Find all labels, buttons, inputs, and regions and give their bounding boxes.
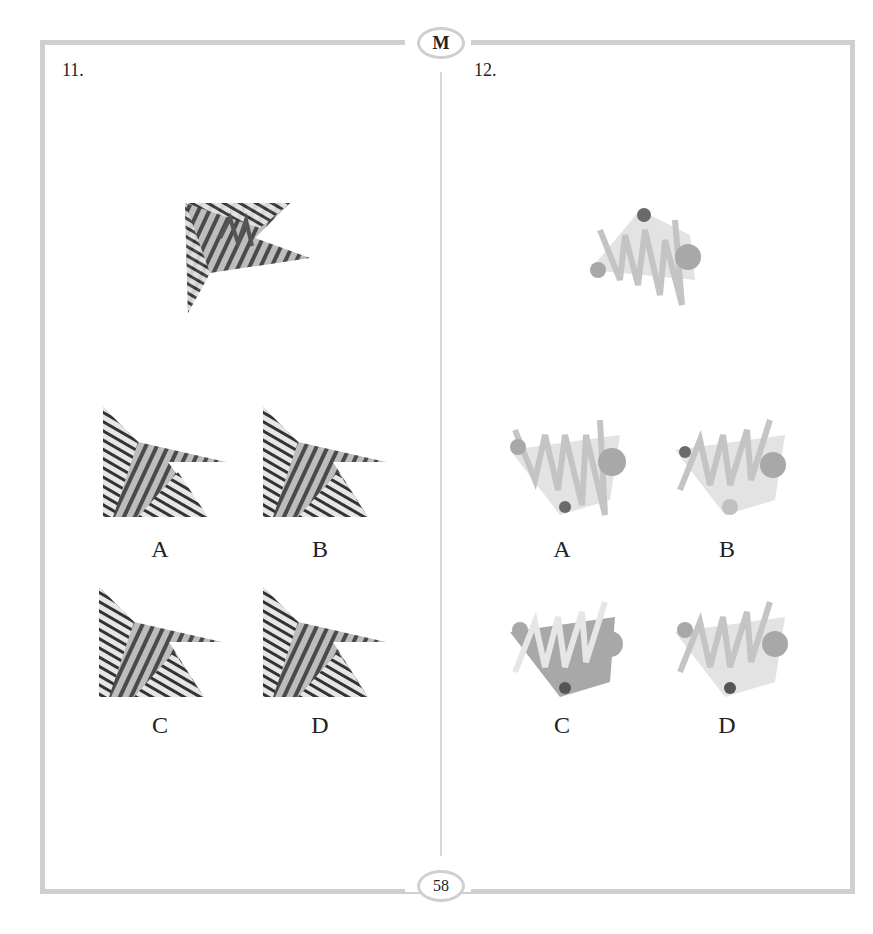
q11-option-b-label: B (300, 536, 340, 563)
q11-option-c-figure[interactable] (94, 582, 234, 702)
q12-option-c-figure[interactable] (500, 592, 635, 702)
page-number: 58 (417, 870, 465, 902)
q12-stem-figure (580, 200, 710, 310)
q12-option-b-figure[interactable] (665, 410, 800, 520)
q11-stem-figure (180, 198, 320, 318)
question-number-12: 12. (474, 60, 497, 81)
q11-option-a-label: A (140, 536, 180, 563)
q11-option-a-figure[interactable] (98, 402, 238, 522)
q11-option-d-label: D (300, 712, 340, 739)
q12-option-d-figure[interactable] (665, 592, 800, 702)
q12-option-c-label: C (542, 712, 582, 739)
q12-option-a-label: A (542, 536, 582, 563)
q11-option-d-figure[interactable] (258, 582, 398, 702)
q12-option-d-label: D (707, 712, 747, 739)
q11-option-b-figure[interactable] (258, 402, 398, 522)
column-divider (440, 72, 442, 856)
q12-option-b-label: B (707, 536, 747, 563)
q11-option-c-label: C (140, 712, 180, 739)
section-badge: M (417, 27, 465, 59)
question-number-11: 11. (62, 60, 84, 81)
q12-option-a-figure[interactable] (500, 410, 635, 520)
